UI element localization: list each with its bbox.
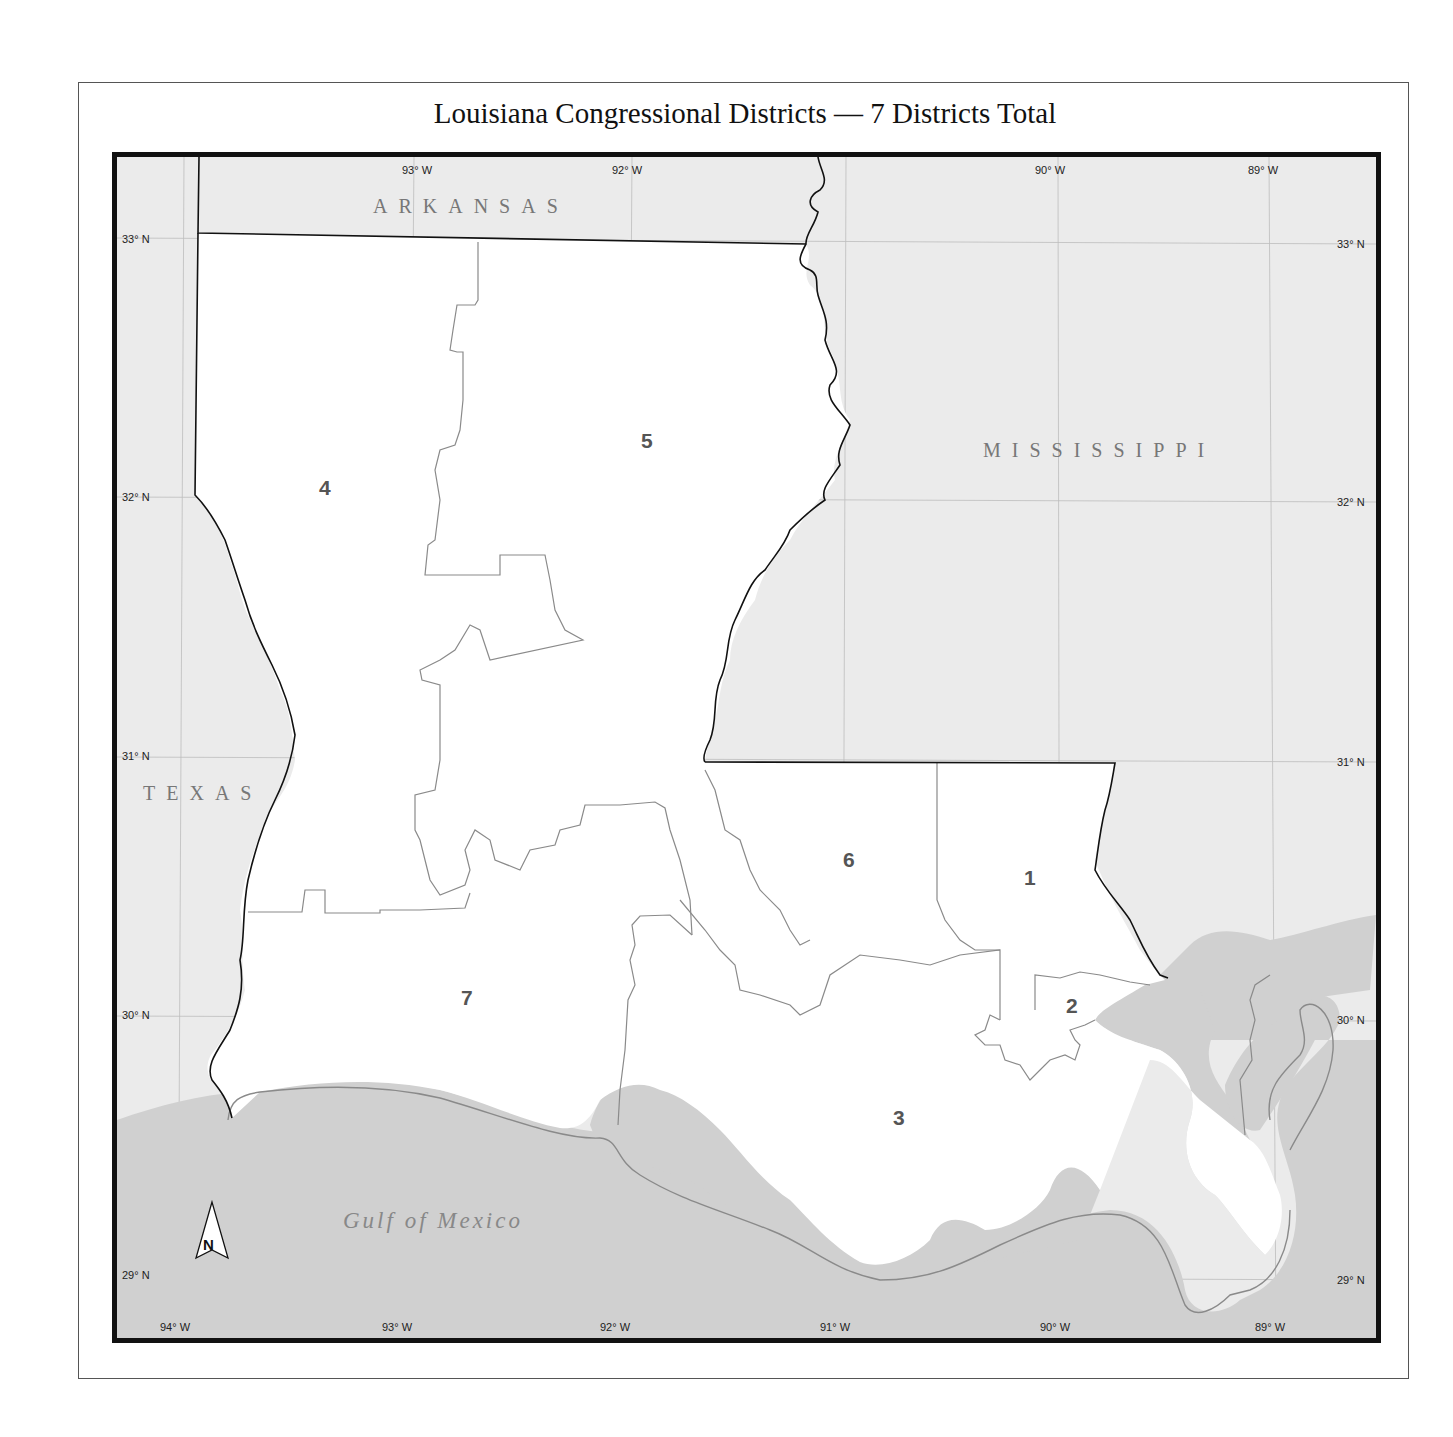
district-label-1[interactable]: 1 [1024, 866, 1036, 889]
lat-label: 30° N [1337, 1014, 1365, 1026]
lon-label: 93° W [402, 164, 433, 176]
lat-label: 29° N [122, 1269, 150, 1281]
lat-label: 30° N [122, 1009, 150, 1021]
state-label-arkansas: ARKANSAS [373, 195, 569, 217]
district-label-3[interactable]: 3 [893, 1106, 905, 1129]
lat-label: 33° N [1337, 238, 1365, 250]
lat-label: 31° N [1337, 756, 1365, 768]
map-title: Louisiana Congressional Districts — 7 Di… [0, 97, 1453, 130]
lat-label: 29° N [1337, 1274, 1365, 1286]
district-label-7[interactable]: 7 [461, 986, 473, 1009]
louisiana-map[interactable]: 93° W 92° W 90° W 89° W 94° W 93° W 92° … [117, 157, 1376, 1338]
north-arrow-label: N [203, 1236, 214, 1253]
lat-label: 32° N [1337, 496, 1365, 508]
lon-label: 89° W [1255, 1321, 1286, 1333]
lon-label: 93° W [382, 1321, 413, 1333]
lon-label: 92° W [600, 1321, 631, 1333]
lon-label: 89° W [1248, 164, 1279, 176]
lon-label: 92° W [612, 164, 643, 176]
district-label-6[interactable]: 6 [843, 848, 855, 871]
longitude-labels-top: 93° W 92° W 90° W 89° W [402, 164, 1279, 176]
lat-label: 32° N [122, 491, 150, 503]
lon-label: 94° W [160, 1321, 191, 1333]
water-label-gulf-of-mexico: Gulf of Mexico [343, 1208, 523, 1233]
lat-label: 33° N [122, 233, 150, 245]
district-label-5[interactable]: 5 [641, 429, 653, 452]
map-frame[interactable]: 93° W 92° W 90° W 89° W 94° W 93° W 92° … [112, 152, 1381, 1343]
lon-label: 90° W [1035, 164, 1066, 176]
state-label-texas: TEXAS [143, 782, 262, 804]
district-label-2[interactable]: 2 [1066, 994, 1078, 1017]
lon-label: 91° W [820, 1321, 851, 1333]
lon-label: 90° W [1040, 1321, 1071, 1333]
state-label-mississippi: MISSISSIPPI [983, 439, 1215, 461]
district-label-4[interactable]: 4 [319, 476, 331, 499]
lat-label: 31° N [122, 750, 150, 762]
